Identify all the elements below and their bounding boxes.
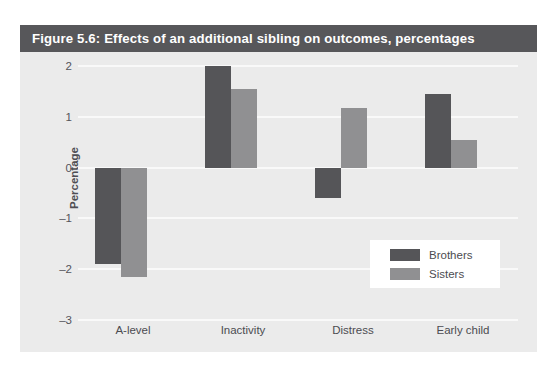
legend-swatch-sisters bbox=[390, 268, 420, 280]
legend-label-brothers: Brothers bbox=[429, 249, 472, 261]
x-axis-label-a-level: A-level bbox=[78, 324, 188, 336]
x-axis-label-distress: Distress bbox=[298, 324, 408, 336]
figure-title: Figure 5.6: Effects of an additional sib… bbox=[20, 31, 475, 46]
figure-container: Figure 5.6: Effects of an additional sib… bbox=[0, 0, 559, 377]
x-axis-label-early-child: Early child bbox=[408, 324, 518, 336]
bar-sisters-distress bbox=[341, 108, 367, 168]
bar-sisters-inactivity bbox=[231, 89, 257, 168]
bar-brothers-inactivity bbox=[205, 66, 231, 168]
y-axis-tick-label: –1 bbox=[59, 212, 72, 224]
legend-item-brothers[interactable]: Brothers bbox=[390, 245, 500, 264]
y-axis-ticks: 210–1–2–3 bbox=[30, 66, 72, 320]
y-axis-tick-label: 2 bbox=[66, 60, 72, 72]
y-axis-tick-label: –3 bbox=[59, 314, 72, 326]
figure-title-band: Figure 5.6: Effects of an additional sib… bbox=[20, 25, 537, 52]
bar-group bbox=[78, 66, 188, 320]
bar-sisters-early-child bbox=[451, 140, 477, 168]
legend-swatch-brothers bbox=[390, 249, 420, 261]
y-axis-tick-label: 0 bbox=[66, 162, 72, 174]
bar-group bbox=[188, 66, 298, 320]
bar-brothers-early-child bbox=[425, 94, 451, 168]
x-axis-label-inactivity: Inactivity bbox=[188, 324, 298, 336]
legend-item-sisters[interactable]: Sisters bbox=[390, 264, 500, 283]
chart-panel: Percentage 210–1–2–3 A-levelInactivityDi… bbox=[20, 52, 537, 352]
legend-label-sisters: Sisters bbox=[429, 268, 464, 280]
y-axis-tick-label: –2 bbox=[59, 263, 72, 275]
bar-sisters-a-level bbox=[121, 168, 147, 277]
x-axis-category-labels: A-levelInactivityDistressEarly child bbox=[78, 324, 518, 344]
chart-legend: BrothersSisters bbox=[370, 240, 500, 288]
y-axis-tick-label: 1 bbox=[66, 111, 72, 123]
bar-brothers-distress bbox=[315, 168, 341, 198]
bar-brothers-a-level bbox=[95, 168, 121, 265]
